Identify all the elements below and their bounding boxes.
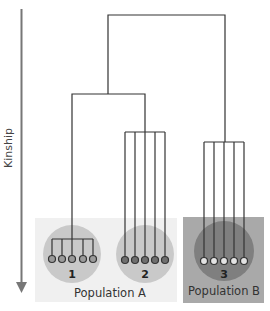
individual-dot <box>201 258 208 265</box>
individual-dot <box>59 256 66 263</box>
individual-dot <box>90 256 97 263</box>
individual-dot <box>49 256 56 263</box>
individual-dot <box>162 257 169 264</box>
individual-dot <box>231 258 238 265</box>
population-b-label: Population B <box>188 284 260 298</box>
individual-dot <box>132 257 139 264</box>
arrow-down-icon <box>16 282 27 293</box>
population-a-label: Population A <box>74 286 146 300</box>
group-2-label: 2 <box>141 268 149 281</box>
individual-dot <box>241 258 248 265</box>
popA-branch <box>72 94 145 239</box>
individual-dot <box>69 256 76 263</box>
individual-dot <box>221 258 228 265</box>
group-1-label: 1 <box>68 268 76 281</box>
group-3-label: 3 <box>220 268 228 281</box>
kinship-axis <box>16 9 27 293</box>
individual-dot <box>211 258 218 265</box>
individual-dot <box>122 257 129 264</box>
individual-dot <box>142 257 149 264</box>
individual-dot <box>152 257 159 264</box>
root-branch <box>108 15 225 142</box>
axis-label-kinship: Kinship <box>2 128 15 168</box>
individual-dot <box>80 256 87 263</box>
kinship-dendrogram: Kinship <box>0 0 270 311</box>
